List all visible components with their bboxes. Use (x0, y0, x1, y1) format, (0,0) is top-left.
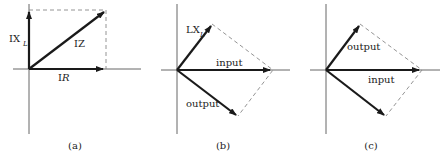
label-output: output (347, 41, 380, 52)
phasor-diagrams: IX L IZ IR (a) LX L input output (b) out… (0, 0, 448, 159)
panel-a: IX L IZ IR (a) (9, 4, 141, 151)
label-lxl: LX (186, 24, 201, 35)
caption-b: (b) (216, 140, 230, 151)
label-iz: IZ (74, 38, 85, 49)
label-ir: IR (58, 72, 70, 83)
panel-c: output input (c) (310, 4, 440, 151)
label-ixl: IX (9, 33, 21, 44)
label-input: input (216, 57, 243, 68)
label-input: input (368, 74, 395, 85)
label-output: output (186, 98, 219, 109)
caption-c: (c) (364, 140, 378, 151)
vector-iz (29, 12, 104, 69)
label-ixl-sub: L (22, 40, 28, 48)
label-lxl-sub: L (199, 31, 205, 39)
panel-b: LX L input output (b) (161, 4, 290, 151)
caption-a: (a) (68, 140, 82, 151)
